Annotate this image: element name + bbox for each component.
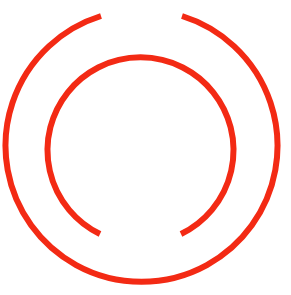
concentric-arcs-graphic	[0, 0, 291, 295]
inner-arc	[47, 57, 233, 234]
